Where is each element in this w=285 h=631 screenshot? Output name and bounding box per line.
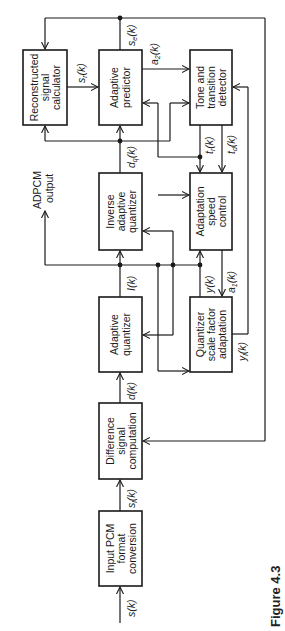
block-label: detector: [216, 68, 228, 106]
junction-dot: [118, 139, 123, 144]
signal-s-label: s(k): [125, 600, 137, 618]
junction-dot: [171, 263, 176, 268]
block-label: Adaptive: [108, 314, 120, 355]
junction-dot: [156, 263, 161, 268]
signal-d-label: d(k): [125, 382, 137, 400]
block-speed-control: Adaptation speed control: [190, 173, 232, 250]
signal-se-label: se(k): [125, 25, 138, 46]
block-label: control: [216, 196, 228, 228]
block-difference: Difference signal computation: [99, 403, 142, 479]
signal-sl-label: sl(k): [125, 489, 138, 508]
adpcm-output-label: ADPCM: [31, 171, 43, 209]
block-adaptive-quantizer: Adaptive quantizer: [99, 297, 142, 372]
block-adaptive-predictor: Adaptive predictor: [99, 50, 142, 125]
junction-dot: [198, 155, 203, 160]
block-input-pcm: Input PCM format conversion: [99, 511, 142, 586]
junction-dot: [118, 263, 123, 268]
block-label: Adaptive: [108, 67, 120, 108]
signal-sr-label: sr(k): [75, 63, 88, 83]
block-label: calculator: [50, 65, 62, 110]
figure-caption: Figure 4.3: [268, 566, 283, 627]
block-scale-factor: Quantizer scale factor adaptation: [190, 297, 232, 372]
block-label: adaptation: [216, 310, 228, 359]
block-inverse-quantizer: Inverse adaptive quantizer: [99, 173, 142, 250]
junction-dot: [118, 16, 123, 21]
signal-y-label: y(k): [203, 276, 215, 295]
signal-a2-label: a2(k): [148, 43, 161, 65]
signal-yl-label: yl(k): [236, 342, 249, 362]
adpcm-output-label-2: output: [43, 174, 55, 203]
signal-dq-label: dq(k): [125, 146, 139, 168]
block-label: quantizer: [120, 312, 132, 356]
block-label: computation: [126, 412, 138, 469]
block-label: conversion: [126, 523, 138, 574]
junction-dot: [198, 263, 203, 268]
adpcm-block-diagram: Input PCM format conversion Difference s…: [0, 0, 285, 631]
signal-I-label: I(k): [125, 276, 137, 291]
signal-a1-label: a1(k): [225, 271, 238, 293]
block-tone-detector: Tone and transition detector: [190, 50, 232, 125]
block-label: predictor: [120, 67, 132, 108]
signal-td-label: td(k): [225, 135, 238, 154]
block-reconstructed-signal: Reconstructed signal calculator: [23, 50, 67, 125]
block-label: quantizer: [126, 189, 138, 233]
signal-tr-label: tr(k): [203, 136, 216, 154]
